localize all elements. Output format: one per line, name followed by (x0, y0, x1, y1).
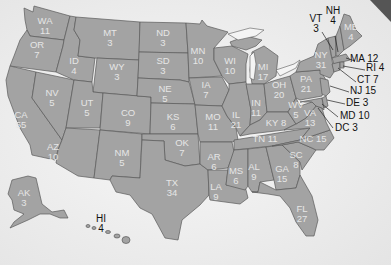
state-votes: 5 (162, 93, 167, 104)
state-votes: 7 (203, 89, 208, 100)
state-label-pa: PA21 (300, 73, 313, 94)
state-votes: 11 (251, 107, 261, 118)
callout-label-md: MD 10 (340, 110, 370, 121)
state-label-va: VA13 (304, 107, 317, 128)
state-votes: 15 (277, 173, 288, 184)
state-label-az: AZ10 (47, 141, 59, 162)
state-votes: 3 (21, 197, 26, 208)
state-votes: 10 (48, 151, 59, 162)
state-votes: 21 (231, 119, 242, 130)
state-label-wi: WI10 (224, 55, 236, 76)
state-label-tn: TN 11 (252, 133, 277, 144)
state-votes: 9 (213, 191, 218, 202)
state-label-nc: NC 15 (300, 133, 327, 144)
state-label-ca: CA55 (14, 109, 28, 130)
callout-label-ct: CT 7 (357, 74, 379, 85)
state-label-ny: NY31 (314, 49, 328, 70)
callout-label-nj: NJ 15 (350, 85, 377, 96)
state-votes: 4 (348, 31, 353, 42)
state-votes: 9 (251, 171, 256, 182)
state-votes: 27 (297, 213, 308, 224)
state-votes: 55 (16, 119, 27, 130)
state-votes: 13 (305, 117, 316, 128)
state-label-in: IN11 (251, 97, 261, 118)
callout-label-dc: DC 3 (335, 122, 358, 133)
state-label-mn: MN10 (191, 45, 206, 66)
state-votes: 6 (170, 121, 175, 132)
state-votes: 5 (293, 109, 298, 120)
state-votes: 3 (160, 37, 165, 48)
state-votes: 9 (125, 117, 130, 128)
state-label-ky: KY 8 (266, 117, 286, 128)
state-votes: 10 (225, 65, 236, 76)
state-votes: 4 (71, 65, 76, 76)
state-votes: 21 (301, 83, 312, 94)
state-label-il: IL21 (231, 109, 242, 130)
state-votes: 10 (193, 55, 204, 66)
state-votes: 5 (84, 107, 89, 118)
state-votes: 11 (208, 121, 218, 132)
state-votes: 17 (258, 71, 269, 82)
state-label-mi: MI17 (258, 61, 269, 82)
state-votes: 3 (160, 65, 165, 76)
state-label-oh: OH20 (272, 79, 286, 100)
state-label-fl: FL27 (296, 203, 307, 224)
state-votes: 5 (119, 157, 124, 168)
callout-label-ri: RI 4 (366, 62, 385, 73)
state-votes: 7 (179, 147, 184, 158)
state-votes: 34 (167, 187, 178, 198)
state-label-tx: TX34 (166, 177, 179, 198)
state-votes: 3 (114, 71, 119, 82)
state-votes: 31 (316, 59, 327, 70)
state-ri[interactable] (340, 62, 344, 68)
state-votes: 6 (233, 175, 238, 186)
state-votes: 6 (211, 161, 216, 172)
us-electoral-map: WA11OR7CA55ID4NV5MT3WY3UT5AZ10CO9NM5ND3S… (0, 0, 391, 265)
state-votes: 7 (34, 49, 39, 60)
state-votes: 8 (293, 159, 298, 170)
state-votes: 5 (49, 97, 54, 108)
state-votes: 3 (107, 37, 112, 48)
callout-label-de: DE 3 (346, 97, 369, 108)
state-votes: 11 (40, 25, 50, 36)
state-votes: 20 (274, 89, 285, 100)
